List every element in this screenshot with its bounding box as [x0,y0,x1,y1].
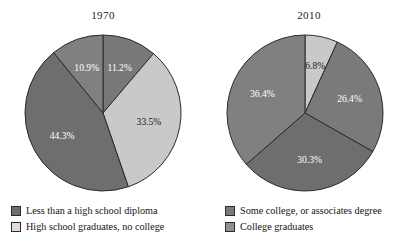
pie-slice-label: 6.8% [305,60,325,71]
legend-column-right: Some college, or associates degree Colle… [225,203,382,235]
legend-item: Some college, or associates degree [225,203,382,218]
legend-item: College graduates [225,219,382,234]
chart-title-1970: 1970 [0,9,206,21]
legend-swatch-icon [11,222,21,232]
legend-swatch-icon [225,206,235,216]
legend-item-label: Some college, or associates degree [240,205,382,216]
pie-wrap-2010: 6.8%26.4%30.3%36.4% [206,30,412,196]
pie-slice-label: 36.4% [250,88,275,99]
legend-swatch-icon [225,222,235,232]
chart-2010: 2010 6.8%26.4%30.3%36.4% [206,0,412,196]
pie-slice-label: 11.2% [107,62,131,73]
pie-slice-label: 44.3% [50,130,75,141]
pie-chart-figure: 1970 11.2%33.5%44.3%10.9% 2010 6.8%26.4%… [0,0,412,245]
legend-item-label: College graduates [240,221,313,232]
legend-item-label: High school graduates, no college [26,221,164,232]
chart-1970: 1970 11.2%33.5%44.3%10.9% [0,0,206,196]
pie-slice-label: 26.4% [337,93,362,104]
pie-svg-1970: 11.2%33.5%44.3%10.9% [0,30,206,196]
legend-item: High school graduates, no college [11,219,164,234]
pie-slice-label: 10.9% [74,62,99,73]
chart-title-2010: 2010 [206,9,412,21]
pie-svg-2010: 6.8%26.4%30.3%36.4% [206,30,412,196]
pie-slice-label: 30.3% [297,154,322,165]
chart-legend: Less than a high school diploma High sch… [0,203,412,245]
legend-column-left: Less than a high school diploma High sch… [11,203,164,235]
legend-item-label: Less than a high school diploma [26,205,158,216]
legend-item: Less than a high school diploma [11,203,164,218]
pie-slice-label: 33.5% [137,116,162,127]
legend-swatch-icon [11,206,21,216]
pie-wrap-1970: 11.2%33.5%44.3%10.9% [0,30,206,196]
